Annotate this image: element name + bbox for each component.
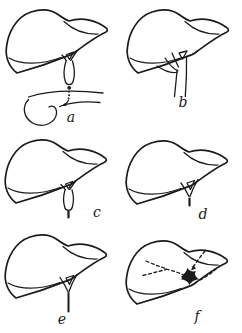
panel-a: a [6, 10, 107, 125]
duodenum-icon [24, 91, 103, 125]
liver-icon [6, 10, 107, 73]
liver-icon [5, 140, 106, 203]
panel-label-c: c [93, 204, 101, 220]
panel-b: b [127, 10, 228, 110]
panel-label-e: e [58, 311, 66, 327]
panel-label-f: f [193, 308, 202, 324]
panel-label-d: d [199, 206, 208, 222]
panel-e: e [5, 235, 106, 327]
liver-icon [126, 141, 227, 204]
liver-icon [5, 235, 106, 298]
dilated-duct-sac-icon [64, 61, 74, 85]
panel-label-a: a [67, 109, 75, 125]
liver-variants-figure: a b c [0, 0, 242, 333]
panel-c: c [5, 140, 106, 220]
dotted-path-icon [68, 98, 70, 100]
duodenum-upper-wall [29, 91, 104, 97]
liver-icon [127, 10, 228, 73]
panel-label-b: b [179, 94, 188, 110]
panel-d: d [126, 141, 227, 222]
figure-grid: a b c [0, 0, 242, 333]
bile-duct-gallbladder-icon [62, 51, 77, 106]
panel-f: f [126, 241, 227, 324]
duct-terminus-dot-icon [67, 86, 71, 90]
duodenal-loop [24, 100, 56, 126]
dotted-path-icon [68, 94, 70, 96]
dilated-duct-sac-icon [64, 190, 74, 210]
